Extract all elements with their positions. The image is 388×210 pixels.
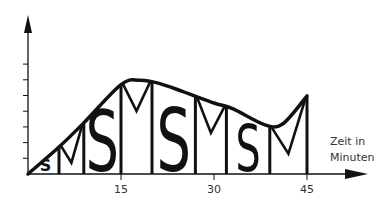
segment-letters: SSSS	[40, 81, 306, 191]
x-axis	[28, 169, 368, 180]
x-axis-title: Zeit in Minuten	[330, 134, 375, 166]
x-tick-label: 45	[300, 183, 314, 196]
y-axis	[23, 15, 32, 174]
x-axis-title-line-1: Zeit in	[330, 134, 375, 150]
segment-letter-s: S	[86, 93, 119, 192]
x-axis-title-line-2: Minuten	[330, 150, 375, 166]
x-tick-label: 15	[114, 183, 128, 196]
y-axis-arrow-icon	[24, 15, 32, 33]
segment-letter-s: S	[156, 89, 190, 191]
chart: SSSS	[0, 0, 388, 210]
x-tick-label: 30	[207, 183, 221, 196]
segment-letter-m	[123, 81, 151, 111]
x-axis-arrow-icon	[345, 169, 368, 179]
